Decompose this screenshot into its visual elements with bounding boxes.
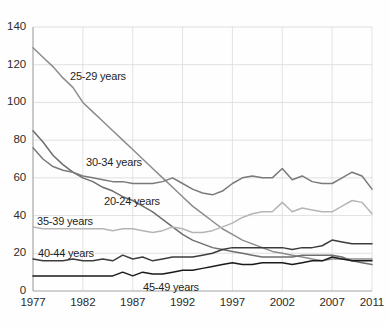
line-chart: 020406080100120140 197719821987199219972… (0, 0, 389, 326)
series-label-35-39-years: 35-39 years (37, 215, 93, 227)
x-tick-label: 1987 (113, 296, 153, 308)
x-tick-label: 1992 (163, 296, 203, 308)
series-label-30-34-years: 30-34 years (86, 156, 142, 168)
series-line-30-34-years (33, 148, 372, 195)
series-label-20-24-years: 20-24 years (104, 195, 160, 207)
x-tick-label: 1997 (212, 296, 252, 308)
chart-plot-area (0, 0, 389, 326)
x-tick-label: 2007 (312, 296, 352, 308)
x-tick-label: 2011 (352, 296, 389, 308)
y-tick-label: 80 (0, 133, 26, 145)
y-tick-label: 100 (0, 95, 26, 107)
series-label-45-49-years: 45-49 years (143, 281, 199, 293)
series-line-20-24-years (33, 131, 372, 265)
y-tick-label: 140 (0, 20, 26, 32)
y-tick-label: 20 (0, 246, 26, 258)
x-tick-label: 1982 (63, 296, 103, 308)
x-tick-label: 1977 (13, 296, 53, 308)
y-tick-label: 0 (0, 284, 26, 296)
y-tick-label: 120 (0, 58, 26, 70)
x-tick-label: 2002 (262, 296, 302, 308)
y-tick-label: 40 (0, 209, 26, 221)
series-label-25-29-years: 25-29 years (70, 70, 126, 82)
series-label-40-44-years: 40-44 years (38, 247, 94, 259)
y-tick-label: 60 (0, 171, 26, 183)
